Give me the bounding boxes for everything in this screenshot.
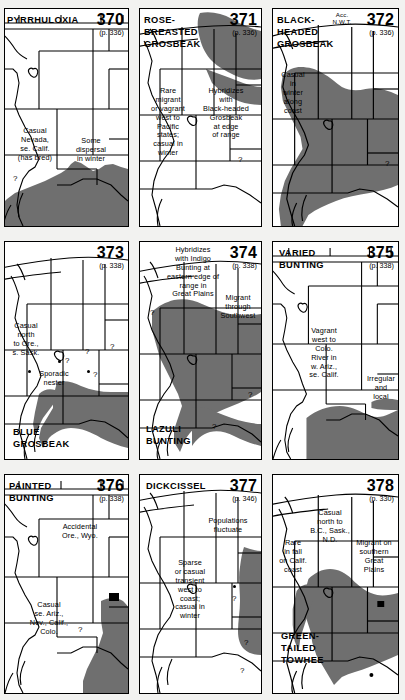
range-map-376 [5,475,128,693]
map-number-374: 374 [230,245,257,261]
question-mark: ? [150,308,154,317]
map-cell-378: 378 (p. 330) Casual north to B.C., Sask.… [268,466,405,700]
map-number-371: 371 [230,12,257,28]
map-page-ref-373: (p. 338) [99,262,124,269]
question-mark: ? [65,356,69,365]
map-page-ref-370: (p. 336) [99,29,124,36]
map-panel-373[interactable]: 373 (p. 338) Casual north to Ore., s. Sa… [4,241,129,460]
annotation-373-0: Casual north to Ore., s. Sask. [6,322,46,358]
map-panel-370[interactable]: PYRRHULOXIA 370 (p. 336) Casual Nevada, … [4,8,129,227]
annotation-378-2: Rare in fall on Calif. coast [274,539,312,575]
map-cell-374: 374 (p. 338) Hybridizes with Indigo Bunt… [135,233,268,466]
annotation-375-1: Irregular and local [359,375,399,402]
map-cell-375: VARIED BUNTING 375 (p. 338) Vagrant west… [268,233,405,466]
map-number-375: 375 [367,245,394,261]
map-panel-372[interactable]: BLACK- HEADED GROSBEAK 372 (p. 336) Acc.… [272,8,399,227]
annotation-372-1: Casual in winter along coast [275,71,311,115]
map-cell-377: DICKCISSEL 377 (p. 346) Populations fluc… [135,466,268,700]
map-grid: PYRRHULOXIA 370 (p. 336) Casual Nevada, … [0,0,405,700]
annotation-370-0: Casual Nevada, se. Calif. (has bred) [9,127,61,163]
map-number-378: 378 [367,478,394,494]
map-page-ref-372: (p. 336) [369,29,394,36]
question-mark: ? [240,666,244,675]
species-label-378: GREEN- TAILED TOWHEE [281,631,324,667]
map-number-373: 373 [97,245,124,261]
species-label-374: LAZULI BUNTING [146,424,191,448]
map-cell-371: ROSE- BREASTED GROSBEAK 371 (p. 336) Rar… [135,0,268,233]
map-cell-373: 373 (p. 338) Casual north to Ore., s. Sa… [0,233,135,466]
question-mark: ? [212,422,216,431]
map-cell-370: PYRRHULOXIA 370 (p. 336) Casual Nevada, … [0,0,135,233]
question-mark: ? [85,347,89,356]
map-number-376: 376 [97,478,124,494]
question-mark: ? [110,342,114,351]
question-mark: ? [248,390,252,399]
range-map-370 [5,9,128,226]
question-mark: ? [244,638,248,647]
map-panel-377[interactable]: DICKCISSEL 377 (p. 346) Populations fluc… [139,474,262,694]
map-number-377: 377 [230,478,257,494]
species-label-375: VARIED BUNTING [279,248,324,272]
species-label-371: ROSE- BREASTED GROSBEAK [144,15,201,51]
annotation-371-1: Hybridizes with Black-headed Grosbeak at… [196,87,256,140]
map-panel-376[interactable]: PAINTED BUNTING 376 (p. 338) Accidental … [4,474,129,694]
map-panel-378[interactable]: 378 (p. 330) Casual north to B.C., Sask.… [272,474,399,694]
annotation-370-1: Some dispersal in winter [63,137,119,164]
annotation-377-1: Sparse or casual transient west to coast… [168,559,212,621]
map-page-ref-377: (p. 346) [232,495,257,502]
map-page-ref-376: (p. 338) [99,495,124,502]
annotation-376-0: Accidental Ore., Wyo. [51,523,109,541]
species-label-377: DICKCISSEL [146,481,206,493]
question-mark: ? [78,625,82,634]
annotation-374-1: Migrant through Southwest [216,294,260,321]
annotation-371-0: Rare migrant or vagrant west to Pacific … [146,87,190,158]
map-page-ref-375: (p. 338) [369,262,394,269]
question-mark: ? [232,594,236,603]
map-cell-372: BLACK- HEADED GROSBEAK 372 (p. 336) Acc.… [268,0,405,233]
map-page-ref-374: (p. 338) [232,262,257,269]
annotation-376-1: Casual se. Ariz., Nev., Calif., Colo. [23,601,75,637]
map-cell-376: PAINTED BUNTING 376 (p. 338) Accidental … [0,466,135,700]
map-panel-371[interactable]: ROSE- BREASTED GROSBEAK 371 (p. 336) Rar… [139,8,262,227]
question-mark: ? [238,155,242,164]
species-label-370: PYRRHULOXIA [7,15,79,27]
question-mark: ? [93,370,97,379]
question-mark: ? [13,174,17,183]
map-page-ref-378: (p. 330) [369,495,394,502]
annotation-378-1: Migrant on southern Great Plains [349,539,399,575]
species-label-373: BLUE GROSBEAK [13,427,70,451]
annotation-372-0: Acc. N.W.T. [325,12,359,26]
map-panel-374[interactable]: 374 (p. 338) Hybridizes with Indigo Bunt… [139,241,262,460]
annotation-377-0: Populations fluctuate [202,517,254,535]
species-label-376: PAINTED BUNTING [9,481,54,505]
map-panel-375[interactable]: VARIED BUNTING 375 (p. 338) Vagrant west… [272,241,399,460]
map-number-370: 370 [97,12,124,28]
map-page-ref-371: (p. 336) [232,29,257,36]
annotation-373-1: Sporadic nester [35,370,73,388]
annotation-374-0: Hybridizes with Indigo Bunting at easter… [162,246,224,299]
map-number-372: 372 [367,12,394,28]
question-mark: ? [385,159,389,168]
annotation-375-0: Vagrant west to Colo. River in w. Ariz.,… [301,327,347,380]
range-map-plate: PYRRHULOXIA 370 (p. 336) Casual Nevada, … [0,0,405,700]
